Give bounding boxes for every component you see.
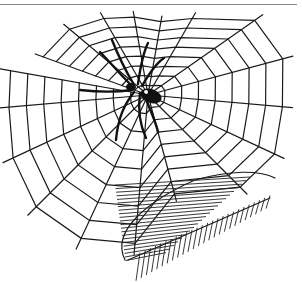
leaf-hatch <box>115 177 250 185</box>
leaf-hatch <box>256 200 260 214</box>
leaf-hatch <box>119 206 218 214</box>
leaf-hatch <box>126 253 167 261</box>
leaf-hatch <box>266 196 270 209</box>
spider-leg <box>80 90 132 92</box>
web-spoke <box>148 15 263 95</box>
leaf <box>115 172 275 280</box>
leaf-hatch <box>120 209 215 217</box>
web-spoke <box>28 95 148 215</box>
leaf-hatch <box>136 253 140 281</box>
spider-web-illustration <box>0 0 302 282</box>
leaf-hatch <box>118 195 231 203</box>
web-spoke <box>76 95 148 249</box>
leaf-hatch <box>120 213 210 221</box>
leaf-hatch <box>250 202 254 217</box>
spider-abdomen <box>138 86 163 107</box>
leaf-hatch <box>245 205 249 220</box>
leaf-hatch <box>235 209 239 226</box>
leaf-hatch <box>261 198 265 212</box>
leaf-hatch <box>116 184 242 192</box>
web-ring <box>44 37 249 207</box>
leaf-hatch <box>118 199 226 207</box>
leaf-hatch <box>240 207 244 223</box>
